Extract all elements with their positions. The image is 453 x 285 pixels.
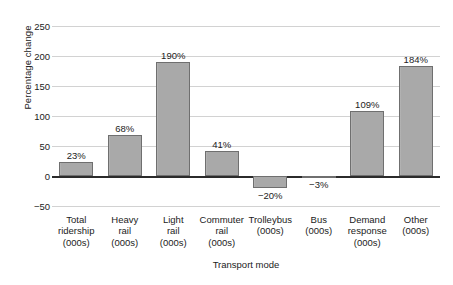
bar-value-label: 184% [386,54,446,65]
x-category-label: Demandresponse(000s) [343,214,392,248]
bar[interactable] [108,135,142,176]
x-category-label-line: (000s) [392,225,441,236]
bar[interactable] [350,111,384,176]
bar[interactable] [156,62,190,176]
x-category-label-line: Bus [295,214,344,225]
bar[interactable] [302,176,336,178]
x-category-label: Commuterrail(000s) [198,214,247,248]
bar-chart: Percentage change 250 200 150 100 50 0 −… [0,0,453,285]
x-category-label-line: (000s) [295,225,344,236]
bar[interactable] [59,162,93,176]
x-category-label-line: Heavy [101,214,150,225]
x-category-label: Lightrail(000s) [149,214,198,248]
y-tick-100: 100 [4,112,50,121]
bar[interactable] [253,176,287,188]
x-category-label-line: (000s) [246,225,295,236]
x-category-label-line: Total [52,214,101,225]
x-category-label-line: (000s) [52,237,101,248]
bar-value-label: 109% [337,99,397,110]
x-category-label-line: Demand [343,214,392,225]
plot-area: 23%Totalridership(000s)68%Heavyrail(000s… [52,18,440,213]
x-category-label-line: rail [198,225,247,236]
bar-value-label: 190% [143,50,203,61]
x-category-label-line: (000s) [101,237,150,248]
bar-value-label: −20% [240,190,300,201]
bar[interactable] [399,66,433,176]
y-tick-0: 0 [4,172,50,181]
x-category-label-line: Other [392,214,441,225]
x-category-label-line: Trolleybus [246,214,295,225]
x-category-label-line: Light [149,214,198,225]
x-category-label-line: (000s) [198,237,247,248]
x-category-label: Other(000s) [392,214,441,237]
x-axis-title: Transport mode [52,259,440,270]
bar[interactable] [205,151,239,176]
y-tick-150: 150 [4,82,50,91]
x-category-label-line: rail [101,225,150,236]
x-category-label-line: rail [149,225,198,236]
x-category-label-line: ridership [52,225,101,236]
y-tick-neg50: −50 [4,202,50,211]
bar-value-label: 23% [46,150,106,161]
bar-value-label: 41% [192,139,252,150]
bar-value-label: 68% [95,123,155,134]
x-category-label-line: response [343,225,392,236]
x-category-label-line: (000s) [343,237,392,248]
y-tick-50: 50 [4,142,50,151]
x-category-label: Heavyrail(000s) [101,214,150,248]
bar-value-label: −3% [289,179,349,190]
y-axis-tick-labels: 250 200 150 100 50 0 −50 [0,0,50,285]
y-tick-250: 250 [4,22,50,31]
x-category-label: Bus(000s) [295,214,344,237]
x-category-label: Totalridership(000s) [52,214,101,248]
y-tick-200: 200 [4,52,50,61]
x-category-label: Trolleybus(000s) [246,214,295,237]
x-category-label-line: (000s) [149,237,198,248]
x-category-label-line: Commuter [198,214,247,225]
